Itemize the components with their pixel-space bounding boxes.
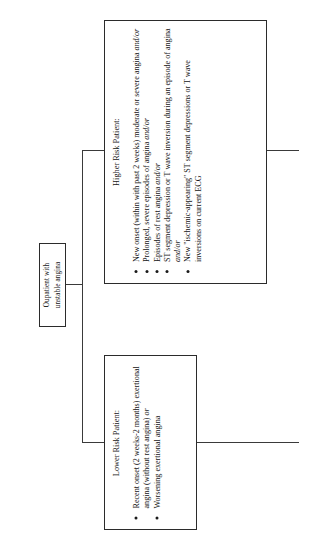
higher-risk-rotated-content: Higher Risk Patient: New onset (within w… xyxy=(104,20,267,284)
higher-risk-item: Prolonged, severe episodes of angina and… xyxy=(141,28,151,276)
start-node-line-2: unstable angina xyxy=(52,243,63,327)
lower-risk-body: Lower Risk Patient: Recent onset (2 week… xyxy=(104,355,197,530)
lower-risk-item-conjunction: or xyxy=(141,408,150,415)
lower-risk-patient-box: Lower Risk Patient: Recent onset (2 week… xyxy=(104,355,197,530)
higher-risk-title: Higher Risk Patient: xyxy=(111,28,121,276)
higher-risk-item: New "ischemic-appearing" ST segment depr… xyxy=(182,28,203,276)
higher-risk-criteria-list: New onset (within with past 2 weeks) mod… xyxy=(131,28,203,276)
higher-risk-item-conjunction: and/or xyxy=(131,29,140,51)
higher-risk-item-text: ST segment depression or T wave inversio… xyxy=(162,28,171,262)
start-node-outpatient-unstable-angina: Oupatient with unstable angina xyxy=(39,243,66,327)
higher-risk-patient-box: Higher Risk Patient: New onset (within w… xyxy=(104,20,267,284)
start-node-text: Oupatient with unstable angina xyxy=(39,243,66,327)
lower-risk-title: Lower Risk Patient: xyxy=(111,363,121,522)
higher-risk-item-conjunction: and/or xyxy=(141,118,150,140)
higher-risk-item: Episodes of rest angina and/or xyxy=(152,28,162,276)
bullet-icon xyxy=(155,270,158,273)
higher-risk-item-text: New onset (within with past 2 weeks) mod… xyxy=(131,51,140,263)
lower-risk-item: Recent onset (2 weeks-2 months) exertion… xyxy=(131,363,152,522)
lower-risk-item-text: Worsening exertional angina xyxy=(152,415,161,508)
connector-lower-exit xyxy=(197,442,299,443)
bullet-icon xyxy=(155,516,158,519)
higher-risk-item: ST segment depression or T wave inversio… xyxy=(162,28,183,276)
lower-risk-item: Worsening exertional angina xyxy=(152,363,162,522)
lower-risk-item-text: Recent onset (2 weeks-2 months) exertion… xyxy=(131,366,150,508)
connector-split-to-higher xyxy=(82,150,105,151)
lower-risk-criteria-list: Recent onset (2 weeks-2 months) exertion… xyxy=(131,363,162,522)
connector-start-to-split xyxy=(66,284,83,285)
connector-split-to-lower xyxy=(82,442,105,443)
bullet-icon xyxy=(186,270,189,273)
higher-risk-item-conjunction: and/or xyxy=(152,163,161,185)
higher-risk-item-text: Episodes of rest angina xyxy=(152,185,161,262)
bullet-icon xyxy=(134,516,137,519)
bullet-icon xyxy=(165,270,168,273)
lower-risk-rotated-content: Lower Risk Patient: Recent onset (2 week… xyxy=(104,355,197,530)
higher-risk-item: New onset (within with past 2 weeks) mod… xyxy=(131,28,141,276)
connector-higher-exit xyxy=(267,150,299,151)
higher-risk-item-conjunction: and/or xyxy=(172,240,181,262)
bullet-icon xyxy=(145,270,148,273)
bullet-icon xyxy=(134,270,137,273)
higher-risk-body: Higher Risk Patient: New onset (within w… xyxy=(104,20,267,284)
higher-risk-item-text: Prolonged, severe episodes of angina xyxy=(141,140,150,262)
start-node-line-1: Oupatient with xyxy=(41,243,52,327)
connector-split-spine xyxy=(82,150,83,442)
higher-risk-item-text: New "ischemic-appearing" ST segment depr… xyxy=(182,60,201,262)
